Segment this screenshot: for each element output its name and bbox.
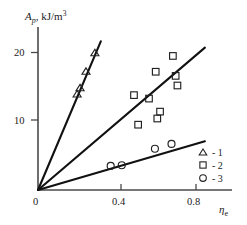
x-tick-label-0p8: 0.8 <box>187 196 200 207</box>
legend-marker-triangle <box>199 149 207 155</box>
data-point-series-3 <box>151 145 158 152</box>
data-point-series-2 <box>152 68 159 75</box>
legend-marker-square <box>200 162 206 168</box>
data-point-series-2 <box>174 82 181 89</box>
data-point-series-3 <box>168 140 175 147</box>
trend-line-series-1 <box>38 41 101 190</box>
y-tick-label-20: 20 <box>14 47 25 58</box>
x-tick-label-0p4: 0.4 <box>112 196 126 207</box>
y-axis-title-exponent: 3 <box>63 9 67 18</box>
data-point-series-2 <box>135 121 142 128</box>
legend-marker-circle <box>200 175 207 182</box>
y-tick-label-10: 10 <box>14 115 25 126</box>
data-point-series-2 <box>154 115 161 122</box>
trend-line-series-3 <box>38 141 205 190</box>
legend-label-1: - 1 <box>212 147 223 158</box>
legend-label-3: - 3 <box>212 173 223 184</box>
chart-legend: - 1- 2- 3 <box>199 147 223 184</box>
data-point-series-2 <box>157 108 164 115</box>
data-point-series-2 <box>170 53 177 60</box>
x-axis-title: ηe <box>219 203 228 218</box>
legend-label-2: - 2 <box>212 160 223 171</box>
scatter-chart: Ap, kJ/m3 ηe 20 10 0 0.4 0.8 - 1- 2- 3 <box>0 0 247 225</box>
plot-data-layer <box>38 41 205 190</box>
x-tick-label-0: 0 <box>33 196 38 207</box>
y-axis-title-units: , kJ/m <box>36 10 63 22</box>
x-axis-title-subscript: e <box>224 209 228 218</box>
y-axis-title: Ap, kJ/m3 <box>24 9 67 25</box>
data-point-series-2 <box>131 92 138 99</box>
